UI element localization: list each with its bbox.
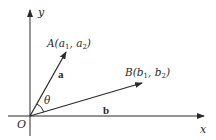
vector-angle-diagram: y x O A(a1, a2) B(b1, b2) a b θ xyxy=(0,0,216,140)
angle-theta-label: θ xyxy=(44,94,51,106)
origin-label: O xyxy=(17,118,26,131)
vector-b-label: b xyxy=(103,104,109,116)
x-axis-label: x xyxy=(200,123,207,136)
point-a-label: A(a1, a2) xyxy=(46,37,91,51)
point-b-label: B(b1, b2) xyxy=(124,66,170,80)
vector-a-label: a xyxy=(58,68,64,80)
y-axis-label: y xyxy=(37,6,45,19)
angle-arc xyxy=(37,104,44,112)
